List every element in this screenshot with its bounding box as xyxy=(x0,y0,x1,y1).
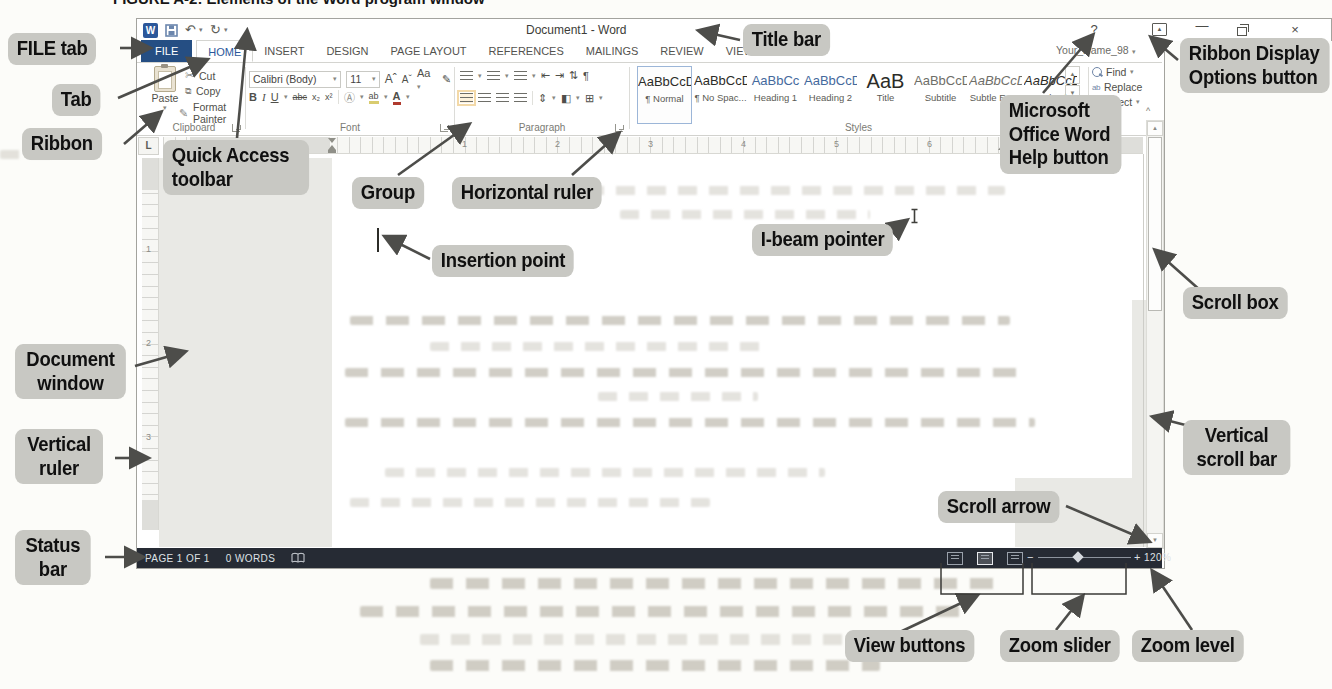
replace-button[interactable]: abReplace xyxy=(1092,81,1162,93)
tab-selector[interactable]: L xyxy=(138,137,159,155)
restore-button[interactable] xyxy=(1237,27,1247,36)
redo-icon[interactable]: ↻ xyxy=(210,23,221,37)
undo-dropdown-icon[interactable]: ▾ xyxy=(199,26,203,34)
callout-i-beam-pointer: I-beam pointer xyxy=(752,224,893,256)
collapse-ribbon-icon[interactable]: ^ xyxy=(1146,106,1150,116)
style-heading-2[interactable]: AaBbCcDHeading 2 xyxy=(804,66,857,122)
proofing-icon[interactable] xyxy=(291,552,305,564)
styles-scroll-up-icon[interactable]: ▲ xyxy=(1065,66,1080,84)
zoom-slider-thumb[interactable] xyxy=(1072,551,1083,562)
font-dialog-launcher[interactable] xyxy=(440,124,448,132)
show-hide-pilcrow-button[interactable]: ¶ xyxy=(583,70,589,82)
scroll-up-arrow[interactable]: ▲ xyxy=(1147,121,1163,136)
find-button[interactable]: Find▾ xyxy=(1092,66,1162,78)
line-spacing-icon[interactable]: ⇕ xyxy=(538,92,547,105)
style-subtitle[interactable]: AaBbCcDSubtitle xyxy=(914,66,967,122)
underline-button[interactable]: U xyxy=(271,91,279,103)
tab-home[interactable]: HOME xyxy=(196,40,253,62)
callout-insertion-point: Insertion point xyxy=(432,245,574,277)
paste-button[interactable]: Paste ▾ xyxy=(147,66,183,112)
close-button[interactable]: × xyxy=(1282,22,1308,37)
account-dropdown-icon[interactable]: ▾ xyxy=(1132,48,1136,55)
horizontal-ruler[interactable]: 1 2 3 4 5 6 7 xyxy=(163,137,1143,154)
align-right-button[interactable] xyxy=(496,93,509,103)
borders-icon[interactable]: ⊞ xyxy=(585,92,594,105)
align-left-button[interactable] xyxy=(460,93,473,103)
i-beam-pointer xyxy=(910,208,919,224)
multilevel-list-icon[interactable] xyxy=(514,71,527,81)
insertion-point xyxy=(377,228,379,252)
font-name-select[interactable]: Calibri (Body)▾ xyxy=(249,71,341,88)
align-center-button[interactable] xyxy=(478,93,491,103)
zoom-out-button[interactable]: − xyxy=(1027,551,1034,563)
scroll-box[interactable] xyxy=(1148,137,1162,311)
tab-insert[interactable]: INSERT xyxy=(253,40,315,62)
tab-design[interactable]: DESIGN xyxy=(315,40,379,62)
print-layout-button[interactable] xyxy=(977,552,993,565)
tab-references[interactable]: REFERENCES xyxy=(478,40,575,62)
copy-button[interactable]: ⧉Copy xyxy=(185,85,221,97)
superscript-button[interactable]: x² xyxy=(325,92,333,102)
style-title[interactable]: AaBTitle xyxy=(859,66,912,122)
read-mode-button[interactable] xyxy=(947,552,963,565)
underline-dropdown-icon[interactable]: ▾ xyxy=(284,93,288,101)
minimize-button[interactable]: — xyxy=(1189,18,1215,33)
shading-icon[interactable]: ◧ xyxy=(561,92,571,105)
grow-font-button[interactable]: Aˆ xyxy=(385,72,397,86)
subscript-button[interactable]: x₂ xyxy=(312,92,320,102)
bullets-icon[interactable] xyxy=(460,71,473,81)
callout-scroll-box: Scroll box xyxy=(1183,287,1287,319)
view-buttons xyxy=(947,552,1023,565)
save-icon[interactable] xyxy=(165,24,178,37)
justify-button[interactable] xyxy=(514,93,527,103)
callout-zoom-slider: Zoom slider xyxy=(1000,630,1119,662)
italic-button[interactable]: I xyxy=(262,91,266,103)
account-name[interactable]: Your_Name_98 ▾ xyxy=(1056,44,1136,56)
zoom-level[interactable]: 120% xyxy=(1144,552,1171,563)
tab-review[interactable]: REVIEW xyxy=(649,40,714,62)
paste-dropdown-icon[interactable]: ▾ xyxy=(147,104,183,112)
highlight-button[interactable]: ab xyxy=(369,91,379,104)
title-bar[interactable]: W ↶ ▾ ↻ ▾ Document1 - Word ? ▲ — × xyxy=(136,18,1332,41)
font-color-button[interactable]: A xyxy=(393,90,401,105)
word-window: W ↶ ▾ ↻ ▾ Document1 - Word ? ▲ — × FILE … xyxy=(136,18,1332,568)
first-line-indent-marker[interactable] xyxy=(328,138,336,143)
change-case-button[interactable]: Aa ▾ xyxy=(417,67,437,91)
style-normal[interactable]: AaBbCcDc¶ Normal xyxy=(637,66,692,124)
vertical-ruler[interactable]: 1 2 3 xyxy=(142,158,159,530)
numbering-icon[interactable] xyxy=(487,71,500,81)
bold-button[interactable]: B xyxy=(249,91,257,103)
web-layout-button[interactable] xyxy=(1007,552,1023,565)
zoom-in-button[interactable]: + xyxy=(1134,551,1141,563)
scroll-down-arrow[interactable]: ▼ xyxy=(1147,533,1163,548)
word-count[interactable]: 0 WORDS xyxy=(226,553,275,564)
clear-formatting-icon[interactable]: ✎ xyxy=(442,73,451,86)
sort-icon[interactable]: ⇅ xyxy=(569,69,578,82)
clipboard-group: Paste ▾ ✂Cut ⧉Copy ✎Format Painter Clipb… xyxy=(145,63,243,135)
page-indicator[interactable]: PAGE 1 OF 1 xyxy=(145,553,210,564)
text-effects-icon[interactable]: Ⓐ xyxy=(344,89,355,105)
vertical-scroll-bar[interactable]: ▲ ▼ xyxy=(1146,120,1164,549)
clipboard-dialog-launcher[interactable] xyxy=(232,124,240,132)
strikethrough-button[interactable]: abc xyxy=(293,92,308,102)
cut-button[interactable]: ✂Cut xyxy=(185,69,215,82)
tab-file[interactable]: FILE xyxy=(141,40,192,62)
paragraph-dialog-launcher[interactable] xyxy=(615,124,623,132)
paragraph-group: ▾ ▾ ▾ ⇤ ⇥ ⇅ ¶ ⇕▾ ◧▾ ⊞▾ Paragraph xyxy=(458,63,626,135)
left-indent-marker[interactable] xyxy=(328,150,336,153)
undo-icon[interactable]: ↶ xyxy=(185,23,196,37)
page: { "figure": { "caption": "FIGURE A-2: El… xyxy=(0,0,1332,689)
font-size-select[interactable]: 11▾ xyxy=(346,71,380,88)
help-button[interactable]: ? xyxy=(1081,22,1107,37)
shrink-font-button[interactable]: Aˇ xyxy=(402,74,412,85)
style-no-spacing[interactable]: AaBbCcDc¶ No Spac... xyxy=(694,66,747,122)
zoom-slider-track[interactable] xyxy=(1038,557,1131,558)
decrease-indent-icon[interactable]: ⇤ xyxy=(541,69,550,82)
paste-icon xyxy=(154,66,176,92)
ribbon-display-options-button[interactable]: ▲ xyxy=(1152,23,1167,36)
tab-page-layout[interactable]: PAGE LAYOUT xyxy=(380,40,478,62)
customize-quick-access-icon[interactable]: ▾ xyxy=(224,26,228,34)
tab-mailings[interactable]: MAILINGS xyxy=(575,40,650,62)
style-heading-1[interactable]: AaBbCcHeading 1 xyxy=(749,66,802,122)
increase-indent-icon[interactable]: ⇥ xyxy=(555,69,564,82)
